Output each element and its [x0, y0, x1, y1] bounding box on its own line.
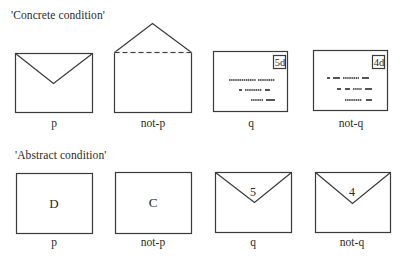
concrete-not-p-label: not-p [113, 116, 193, 130]
abstract-q-label: q [213, 235, 293, 249]
stamp-4d-text: 4d [372, 56, 386, 69]
abstract-not-q-envelope [316, 173, 391, 233]
abstract-p-label: p [14, 235, 94, 249]
abstract-not-p-label: not-p [113, 235, 193, 249]
concrete-p-envelope [16, 54, 93, 113]
concrete-not-p-envelope [115, 24, 192, 113]
stamp-5d-text: 5d [273, 56, 287, 69]
concrete-not-q-label: not-q [311, 116, 391, 130]
abstract-q-number: 5 [243, 185, 263, 200]
abstract-not-q-label: not-q [312, 235, 392, 249]
q-address-lines [229, 80, 275, 100]
concrete-q-label: q [211, 116, 291, 130]
not-q-address-lines [327, 78, 372, 100]
abstract-p-letter: D [39, 196, 69, 212]
abstract-not-p-letter: C [138, 195, 168, 211]
concrete-p-label: p [14, 116, 94, 130]
abstract-q-envelope [216, 173, 292, 233]
abstract-not-q-number: 4 [342, 185, 362, 200]
